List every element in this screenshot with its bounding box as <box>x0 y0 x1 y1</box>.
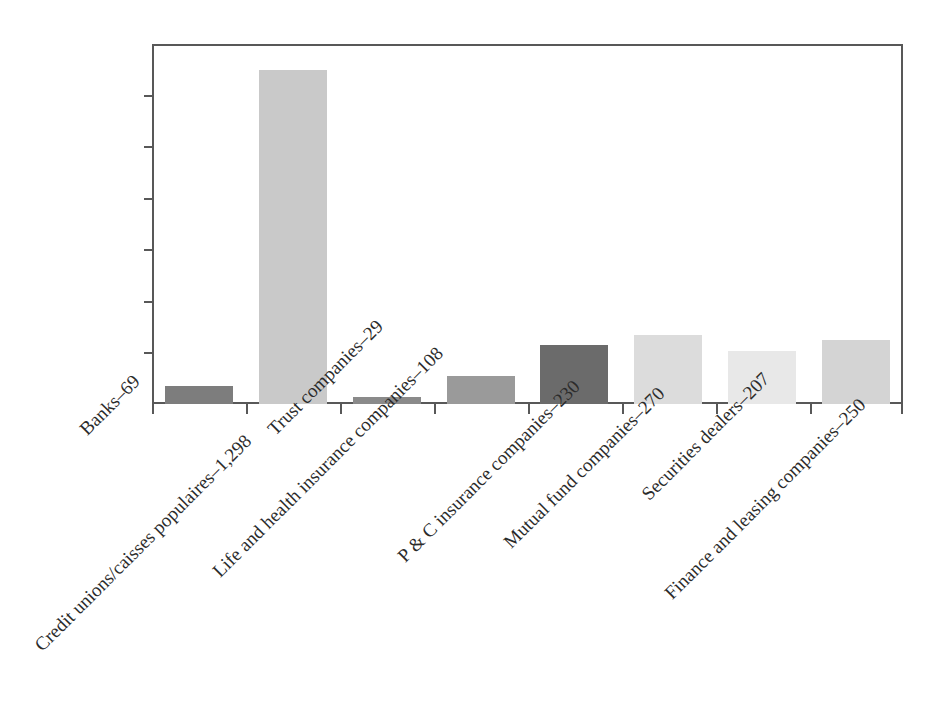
x-tick-label-banks: Banks–69 <box>76 371 143 438</box>
x-tick-label-pc-insurance: P & C insurance companies–230 <box>394 376 583 565</box>
x-tick-label-credit-unions: Credit unions/caisses populaires–1,298 <box>31 431 255 655</box>
x-tick-label-mutual-fund: Mutual fund companies–270 <box>500 384 668 552</box>
bar-chart: 1,400 1,200 1,000 800 600 400 200 0 <box>0 0 942 715</box>
x-tick-label-finance-leasing: Finance and leasing companies–250 <box>661 395 869 603</box>
x-axis-labels: Banks–69 Credit unions/caisses populaire… <box>0 0 942 715</box>
